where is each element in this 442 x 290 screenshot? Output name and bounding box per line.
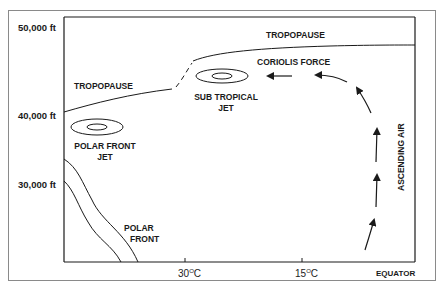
tropopause-break-dashed <box>176 63 192 87</box>
y-label-30000: 30,000 ft <box>18 180 56 190</box>
label-polar-front-jet: POLAR FRONT JET <box>74 142 135 161</box>
polar-front-jet-icon <box>71 119 123 135</box>
ascending-arrow-upper-curve <box>357 88 371 113</box>
label-polar-front: POLAR FRONT <box>124 224 159 243</box>
x-label-equator: EQUATOR <box>376 270 415 278</box>
coriolis-arrow-right <box>316 75 347 82</box>
ascending-arrow-upper <box>376 129 377 162</box>
diagram-canvas <box>0 0 442 290</box>
y-label-40000: 40,000 ft <box>18 111 56 121</box>
ascending-arrow-middle <box>376 175 377 207</box>
label-coriolis-force: CORIOLIS FORCE <box>257 58 330 67</box>
polar-front-line-inner <box>64 181 121 262</box>
tropopause-low-line <box>64 89 172 112</box>
ascending-arrow-lower <box>365 220 374 250</box>
x-label-15c: 15OC <box>295 268 318 279</box>
polar-front-line-outer <box>64 159 138 262</box>
label-tropopause-high: TROPOPAUSE <box>266 31 325 40</box>
sub-tropical-jet-icon <box>196 69 248 83</box>
label-sub-tropical-jet: SUB TROPICAL JET <box>194 93 258 112</box>
y-label-50000: 50,000 ft <box>18 23 56 33</box>
plot-box <box>64 17 415 262</box>
label-tropopause-low: TROPOPAUSE <box>74 82 133 91</box>
x-label-30c: 30OC <box>178 268 201 279</box>
label-ascending-air: ASCENDING AIR <box>397 123 406 191</box>
